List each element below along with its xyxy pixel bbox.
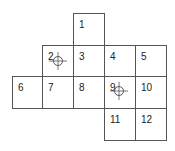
cell-label: 2	[48, 52, 54, 62]
grid-cell-6[interactable]: 6	[12, 76, 43, 109]
cell-label: 3	[79, 52, 85, 62]
grid-cell-8[interactable]: 8	[73, 76, 105, 109]
cell-label: 5	[141, 52, 147, 62]
cell-label: 7	[48, 83, 54, 93]
cell-label: 8	[79, 83, 85, 93]
grid-cell-5[interactable]: 5	[135, 45, 167, 77]
grid-cell-3[interactable]: 3	[73, 45, 105, 77]
grid-cell-11[interactable]: 11	[104, 108, 136, 141]
grid-cell-2[interactable]: 2	[42, 45, 74, 77]
cell-label: 6	[18, 83, 24, 93]
cell-label: 10	[141, 83, 152, 93]
cell-label: 11	[110, 115, 120, 125]
grid-cell-7[interactable]: 7	[42, 76, 74, 109]
cell-label: 1	[79, 20, 85, 30]
grid-cell-9[interactable]: 9	[104, 76, 136, 109]
grid-cell-10[interactable]: 10	[135, 76, 167, 109]
cell-label: 9	[110, 83, 116, 93]
cell-label: 4	[110, 52, 116, 62]
grid-cell-4[interactable]: 4	[104, 45, 136, 77]
cell-label: 12	[141, 115, 152, 125]
grid-cell-12[interactable]: 12	[135, 108, 167, 141]
grid-cell-1[interactable]: 1	[73, 13, 105, 46]
